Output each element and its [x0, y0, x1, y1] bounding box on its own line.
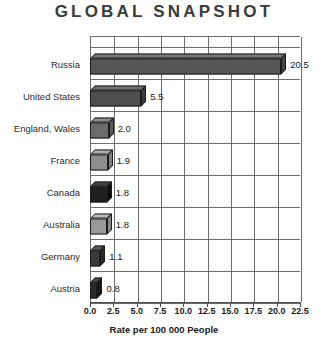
gridline-vertical	[254, 37, 255, 302]
gridline-vertical	[184, 37, 185, 302]
gridline-vertical	[278, 37, 279, 302]
chart-container: GLOBAL SNAPSHOT RussiaUnited StatesEngla…	[0, 0, 328, 349]
bar-front-face	[90, 219, 107, 235]
gridline-horizontal	[91, 111, 300, 112]
gridline-horizontal	[91, 271, 300, 272]
category-label: Russia	[0, 59, 80, 70]
gridline-vertical	[161, 37, 162, 302]
bar-value-label: 0.8	[106, 283, 119, 294]
x-axis-line	[90, 302, 301, 303]
bar	[90, 278, 102, 299]
gridline-horizontal	[91, 47, 300, 48]
gridline-horizontal	[91, 79, 300, 80]
gridline-vertical	[114, 37, 115, 302]
bar-side-face	[107, 182, 112, 203]
bar-value-label: 20.5	[290, 59, 309, 70]
bar-front-face	[90, 123, 109, 139]
bar	[90, 182, 112, 203]
gridline-horizontal	[91, 207, 300, 208]
bar-front-face	[90, 91, 141, 107]
gridline-vertical	[208, 37, 209, 302]
gridline-horizontal	[91, 143, 300, 144]
bar-front-face	[90, 59, 281, 75]
gridline-vertical	[231, 37, 232, 302]
category-label: Canada	[0, 187, 80, 198]
bar-side-face	[97, 278, 102, 299]
bar-front-face	[90, 155, 108, 171]
bar	[90, 150, 113, 171]
category-label: Germany	[0, 251, 80, 262]
bar-value-label: 5.5	[150, 91, 163, 102]
category-label: England, Wales	[0, 123, 80, 134]
bar-side-face	[108, 150, 113, 171]
category-label: United States	[0, 91, 80, 102]
bar-front-face	[90, 187, 107, 203]
bar-front-face	[90, 251, 100, 267]
bar-value-label: 2.0	[118, 123, 131, 134]
bar-side-face	[281, 54, 286, 75]
chart-title: GLOBAL SNAPSHOT	[0, 2, 328, 22]
category-label: Austria	[0, 283, 80, 294]
bar	[90, 246, 105, 267]
gridline-horizontal	[91, 303, 300, 304]
category-label: France	[0, 155, 80, 166]
bar-side-face	[109, 118, 114, 139]
bar-value-label: 1.1	[109, 251, 122, 262]
bar-value-label: 1.9	[117, 155, 130, 166]
bar	[90, 214, 112, 235]
category-label: Australia	[0, 219, 80, 230]
bar-side-face	[107, 214, 112, 235]
bar-value-label: 1.8	[116, 219, 129, 230]
gridline-vertical	[138, 37, 139, 302]
bar-side-face	[141, 86, 146, 107]
x-tick-label: 22.5	[285, 306, 315, 316]
bar	[90, 118, 114, 139]
bar	[90, 54, 286, 75]
bar-side-face	[100, 246, 105, 267]
x-axis-title: Rate per 100 000 People	[0, 324, 328, 335]
bar	[90, 86, 146, 107]
gridline-horizontal	[91, 175, 300, 176]
plot-area	[90, 36, 300, 302]
bar-value-label: 1.8	[116, 187, 129, 198]
gridline-horizontal	[91, 239, 300, 240]
gridline-vertical	[301, 37, 302, 302]
